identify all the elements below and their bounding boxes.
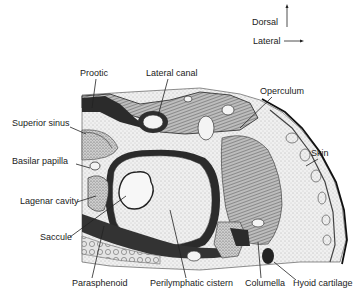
hyoid-cartilage [262, 248, 274, 264]
label-prootic: Prootic [80, 68, 109, 78]
label-lagenar-cavity: Lagenar cavity [20, 196, 79, 206]
label-parasphenoid: Parasphenoid [72, 278, 128, 288]
dorsal-arrowhead-icon [286, 4, 289, 8]
label-perilymphatic-cistern: Perilymphatic cistern [150, 278, 233, 288]
saccule [119, 172, 153, 209]
label-columella: Columella [245, 278, 285, 288]
label-hyoid-cartilage: Hyoid cartilage [293, 278, 353, 288]
basilar-papilla [90, 162, 100, 170]
anatomical-diagram: Dorsal Lateral [0, 0, 356, 299]
label-lateral-canal: Lateral canal [146, 68, 198, 78]
columella-bubble [252, 219, 264, 227]
label-saccule: Saccule [40, 232, 72, 242]
orientation-indicator: Dorsal Lateral [252, 4, 304, 46]
dorsal-label: Dorsal [252, 17, 278, 27]
lateral-arrowhead-icon [300, 40, 304, 43]
label-superior-sinus: Superior sinus [12, 118, 70, 128]
section-illustration [82, 88, 347, 270]
lagenar-cavity [88, 176, 109, 212]
label-operculum: Operculum [260, 86, 304, 96]
lateral-canal-lumen [143, 115, 163, 129]
label-basilar-papilla: Basilar papilla [12, 156, 68, 166]
lateral-label: Lateral [253, 36, 281, 46]
label-skin: Skin [311, 148, 329, 158]
